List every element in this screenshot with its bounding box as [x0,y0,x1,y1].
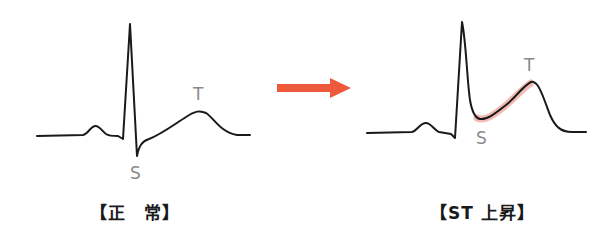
right-s-label: S [476,128,487,148]
right-t-label: T [524,55,534,75]
st-elevation-caption: 【ST 上昇】 [430,199,535,224]
normal-ecg-waveform [37,24,250,156]
left-s-label: S [130,163,141,183]
left-t-label: T [193,84,203,104]
right-arrow-icon [277,78,351,98]
normal-caption: 【正 常】 [90,199,180,224]
